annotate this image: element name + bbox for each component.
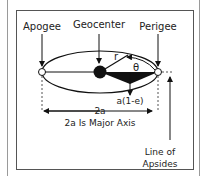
major-axis-caption: 2a Is Major Axis: [65, 118, 136, 128]
apsides-label-line1: Line of: [145, 147, 176, 157]
major-axis-short-label: 2a: [94, 106, 105, 116]
geocenter-dot: [94, 66, 107, 79]
angle-arc: [127, 57, 155, 70]
apogee-point: [39, 69, 46, 76]
geocenter-label: Geocenter: [73, 19, 126, 30]
apsides-label-line2: Apsides: [143, 159, 178, 169]
orbit-diagram: Apogee Geocenter Perigee r θ a(1-e) 2a 2…: [0, 0, 206, 178]
perigee-label: Perigee: [139, 21, 176, 32]
angle-label: θ: [133, 62, 139, 73]
distance-label: a(1-e): [116, 96, 143, 106]
apogee-label: Apogee: [23, 21, 61, 32]
perigee-point: [155, 69, 162, 76]
shaded-triangle: [100, 72, 158, 84]
